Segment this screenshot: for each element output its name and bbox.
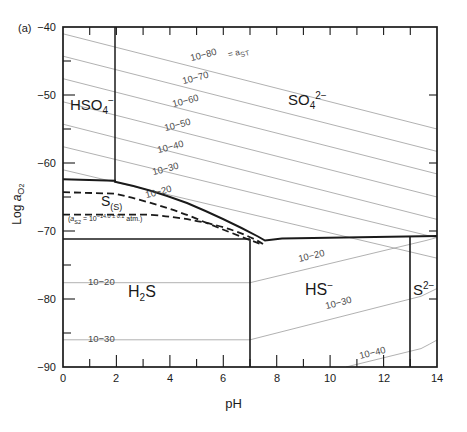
species-label-h2s: H2S bbox=[128, 283, 156, 303]
s-solid-main: S bbox=[101, 193, 110, 209]
contour-label-h2s-10e-20: 10−20 bbox=[88, 276, 115, 287]
sulfur-activity-note: (aS2 = 10−14.0 ± 0.1 atm.) bbox=[68, 213, 142, 225]
y-tick-label-minus40: −40 bbox=[22, 21, 56, 33]
y-tick-label-minus80: −80 bbox=[22, 293, 56, 305]
note-eq: = 10 bbox=[81, 215, 97, 222]
note-exp: −14.0 ± 0.1 bbox=[97, 213, 125, 219]
sulfur-stability-diagram: (a) −40 −50 −60 −70 −80 −90 0 2 4 6 8 10… bbox=[0, 0, 467, 432]
x-tick-label-6: 6 bbox=[211, 372, 235, 384]
x-tick-label-10: 10 bbox=[318, 372, 342, 384]
contour-label-h2s-10e-30: 10−30 bbox=[88, 333, 115, 344]
so4-main: SO bbox=[288, 91, 310, 108]
y-axis-title-a: a bbox=[10, 195, 24, 202]
y-axis-title-sub: O bbox=[16, 188, 26, 195]
species-label-so4: SO42− bbox=[288, 90, 327, 111]
x-tick-label-8: 8 bbox=[265, 372, 289, 384]
hs-main: HS bbox=[305, 281, 327, 298]
x-axis-ticks-top bbox=[90, 27, 411, 35]
y-tick-label-minus60: −60 bbox=[22, 157, 56, 169]
contour-text: 10−30 bbox=[88, 333, 115, 344]
contour-text: 10−20 bbox=[88, 276, 115, 287]
species-label-hso4: HSO4− bbox=[70, 95, 114, 116]
x-tick-label-2: 2 bbox=[104, 372, 128, 384]
hs-sup: − bbox=[327, 280, 333, 291]
total-s-eq: = a bbox=[227, 47, 241, 60]
so4-sup: 2− bbox=[315, 90, 326, 101]
y-tick-label-minus70: −70 bbox=[22, 225, 56, 237]
species-label-s-solid: S(S) bbox=[101, 193, 122, 212]
contour-10e-80 bbox=[63, 34, 437, 129]
x-tick-label-4: 4 bbox=[158, 372, 182, 384]
hso4-sup: − bbox=[108, 95, 114, 106]
s2-main: S bbox=[413, 281, 423, 298]
x-tick-label-12: 12 bbox=[372, 372, 396, 384]
s-solid-sub: (S) bbox=[110, 202, 122, 212]
so4-sub: 4 bbox=[310, 100, 316, 111]
h2s-tail: S bbox=[145, 283, 156, 300]
species-label-hs: HS− bbox=[305, 280, 333, 299]
hso4-sub: 4 bbox=[103, 105, 109, 116]
x-tick-label-0: 0 bbox=[51, 372, 75, 384]
note-unit: atm.) bbox=[124, 215, 142, 222]
y-axis-title: Log aO2 bbox=[10, 164, 26, 244]
s2-sup: 2− bbox=[423, 280, 434, 291]
h2s-main: H bbox=[128, 283, 140, 300]
y-axis-title-log: Log bbox=[10, 205, 24, 225]
contour-s2-10e-40-tail bbox=[421, 340, 437, 349]
contour-10e-70 bbox=[63, 56, 437, 151]
y-axis-title-sub2: 2 bbox=[18, 184, 25, 188]
x-tick-label-14: 14 bbox=[425, 372, 449, 384]
contour-s2-10e-20-tail bbox=[426, 238, 437, 241]
hso4-main: HSO bbox=[70, 96, 103, 113]
y-tick-label-minus50: −50 bbox=[22, 89, 56, 101]
x-axis-title: pH bbox=[0, 396, 467, 411]
species-label-s2: S2− bbox=[413, 280, 434, 298]
contour-10e-60 bbox=[63, 79, 437, 174]
contour-hs-10e-20 bbox=[250, 241, 426, 283]
